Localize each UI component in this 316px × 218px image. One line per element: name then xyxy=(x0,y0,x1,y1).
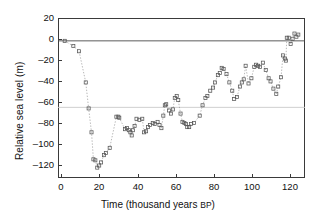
x-axis-title: Time (thousand years BP) xyxy=(0,199,316,210)
y-tick-mark xyxy=(58,81,62,82)
y-tick-mark xyxy=(58,165,62,166)
x-tick-label-0: 0 xyxy=(51,182,71,192)
y-tick-label-m60: –60 xyxy=(20,97,54,107)
x-tick-mark xyxy=(290,174,291,178)
x-tick-mark xyxy=(252,174,253,178)
x-tick-label-120: 120 xyxy=(278,182,302,192)
x-tick-mark xyxy=(99,174,100,178)
y-tick-mark xyxy=(58,102,62,103)
sea-level-chart-figure: 20 0 –20 –40 –60 –80 –100 –120 0 20 40 6… xyxy=(0,0,316,218)
x-axis-title-bp: BP xyxy=(200,200,211,210)
x-tick-label-20: 20 xyxy=(89,182,109,192)
x-tick-label-100: 100 xyxy=(240,182,264,192)
y-tick-mark xyxy=(58,123,62,124)
x-axis-title-close: ) xyxy=(212,199,215,210)
x-tick-label-40: 40 xyxy=(128,182,148,192)
y-tick-label-20: 20 xyxy=(24,13,54,23)
y-tick-label-m20: –20 xyxy=(20,55,54,65)
y-tick-mark xyxy=(58,39,62,40)
x-tick-mark xyxy=(61,174,62,178)
x-tick-mark xyxy=(138,174,139,178)
y-tick-label-m120: –120 xyxy=(16,160,54,170)
y-tick-mark xyxy=(58,144,62,145)
y-tick-mark xyxy=(58,60,62,61)
y-tick-label-m40: –40 xyxy=(20,76,54,86)
plot-area xyxy=(58,18,305,178)
x-tick-mark xyxy=(214,174,215,178)
x-tick-label-60: 60 xyxy=(166,182,186,192)
x-axis-title-main: Time (thousand years xyxy=(101,199,200,210)
y-axis-title: Relative sea level (m) xyxy=(14,62,25,160)
x-tick-label-80: 80 xyxy=(204,182,224,192)
y-tick-label-m80: –80 xyxy=(20,118,54,128)
y-tick-label-0: 0 xyxy=(24,34,54,44)
y-tick-mark xyxy=(58,18,62,19)
x-tick-mark xyxy=(176,174,177,178)
